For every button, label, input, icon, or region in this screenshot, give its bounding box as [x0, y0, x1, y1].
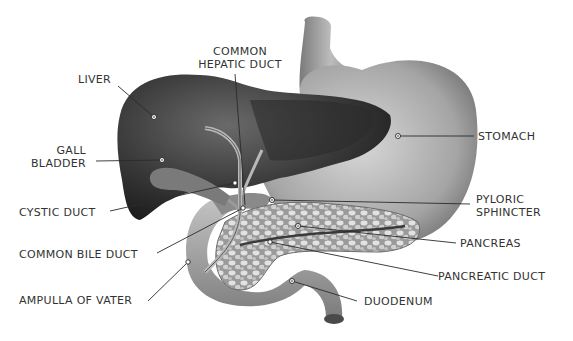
label-pyloric-sphincter: PYLORIC SPHINCTER [476, 193, 541, 219]
label-duodenum: DUODENUM [364, 295, 433, 308]
label-common-hepatic-duct: COMMON HEPATIC DUCT [190, 45, 290, 71]
label-stomach: STOMACH [478, 130, 535, 143]
label-common-hepatic-duct-line2: HEPATIC DUCT [190, 58, 290, 71]
label-pancreas: PANCREAS [460, 237, 521, 250]
label-pyloric-sphincter-line1: PYLORIC [476, 193, 541, 206]
label-pyloric-sphincter-line2: SPHINCTER [476, 206, 541, 219]
anatomy-diagram: COMMON HEPATIC DUCT LIVER GALL BLADDER C… [0, 0, 573, 341]
label-pancreatic-duct: PANCREATIC DUCT [438, 270, 545, 283]
label-gall-bladder-line1: GALL [20, 144, 86, 157]
label-gall-bladder: GALL BLADDER [20, 144, 86, 170]
label-common-bile-duct: COMMON BILE DUCT [19, 248, 138, 261]
label-common-hepatic-duct-line1: COMMON [190, 45, 290, 58]
label-cystic-duct: CYSTIC DUCT [19, 206, 96, 219]
label-ampulla-of-vater: AMPULLA OF VATER [19, 294, 132, 307]
label-gall-bladder-line2: BLADDER [20, 157, 86, 170]
label-liver: LIVER [78, 73, 111, 86]
